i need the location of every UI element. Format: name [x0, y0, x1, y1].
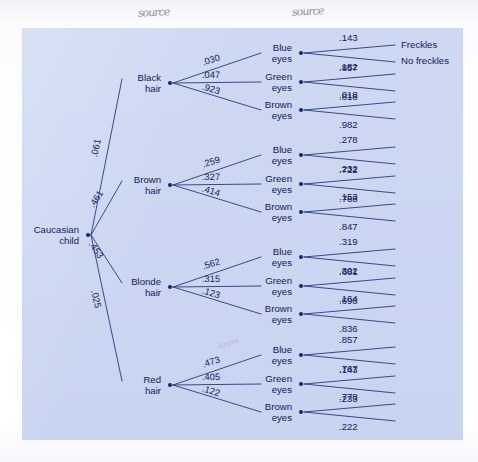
prob-nofreckles-3-2: .222: [339, 421, 358, 432]
node-eye-label-2-0-line2: eyes: [0, 257, 292, 268]
prob-nofreckles-0-2: .982: [339, 119, 358, 130]
node-eye-label-0-0-line1: Blue: [0, 42, 292, 53]
edge-eye-freckles-2-2: [304, 306, 395, 314]
prob-nofreckles-1-2: .847: [339, 221, 358, 232]
node-root-label-line1: Caucasian: [0, 224, 79, 235]
node-eye-label-1-1: Greeneyes: [0, 173, 292, 195]
edge-eye-nofreckles-2-2: [304, 314, 395, 323]
node-eye-label-1-0-line1: Blue: [0, 144, 292, 155]
edge-eye-freckles-0-0: [304, 45, 395, 53]
edge-eye-freckles-1-1: [304, 176, 395, 184]
node-eye-label-3-2-line2: eyes: [0, 412, 292, 423]
edge-eye-nofreckles-3-2: [304, 412, 395, 421]
node-eye-label-1-2: Browneyes: [0, 201, 292, 223]
prob-freckles-3-2: .778: [339, 391, 358, 402]
node-eye-label-1-0: Blueeyes: [0, 144, 292, 166]
prob-freckles-3-1: .767: [339, 363, 358, 374]
node-root-label: Caucasianchild: [0, 224, 79, 246]
prob-freckles-2-0: .319: [339, 236, 358, 247]
node-eye-label-0-2-line2: eyes: [0, 110, 292, 121]
edge-eye-nofreckles-1-2: [304, 212, 395, 221]
node-eye-label-3-0: Blueeyes: [0, 344, 292, 366]
node-eye-label-1-2-line1: Brown: [0, 201, 292, 212]
node-eye-label-2-2: Browneyes: [0, 303, 292, 325]
prob-freckles-1-2: .153: [339, 191, 358, 202]
node-root-label-line2: child: [0, 235, 79, 246]
node-eye-label-1-1-line2: eyes: [0, 184, 292, 195]
edge-eye-freckles-2-0: [304, 249, 395, 257]
prob-freckles-0-2: .018: [339, 89, 358, 100]
node-eye-label-3-1-line1: Green: [0, 373, 292, 384]
node-eye-label-0-2-line1: Brown: [0, 99, 292, 110]
prob-freckles-3-0: .857: [339, 334, 358, 345]
node-eye-label-1-0-line2: eyes: [0, 155, 292, 166]
edge-eye-freckles-2-1: [304, 278, 395, 286]
prob-freckles-1-1: .232: [339, 163, 358, 174]
node-eye-label-1-2-line2: eyes: [0, 212, 292, 223]
node-eye-label-1-1-line1: Green: [0, 173, 292, 184]
node-eye-label-0-0-line2: eyes: [0, 53, 292, 64]
prob-nofreckles-2-2: .836: [339, 323, 358, 334]
node-eye-label-3-1: Greeneyes: [0, 373, 292, 395]
prob-freckles-0-1: .182: [339, 61, 358, 72]
node-eye-label-2-0: Blueeyes: [0, 246, 292, 268]
node-eye-label-0-1: Greeneyes: [0, 71, 292, 93]
edge-eye-nofreckles-0-2: [304, 110, 395, 119]
node-eye-label-3-1-line2: eyes: [0, 384, 292, 395]
edge-eye-freckles-0-1: [304, 74, 395, 82]
node-eye-label-3-2: Browneyes: [0, 401, 292, 423]
edge-eye-freckles-3-2: [304, 404, 395, 412]
prob-freckles-2-2: .164: [339, 293, 358, 304]
prob-freckles-0-0: .143: [339, 32, 358, 43]
node-eye-label-2-0-line1: Blue: [0, 246, 292, 257]
node-eye-label-3-2-line1: Brown: [0, 401, 292, 412]
node-eye-label-2-1: Greeneyes: [0, 275, 292, 297]
prob-freckles-2-1: .302: [339, 265, 358, 276]
node-eye-label-2-2-line1: Brown: [0, 303, 292, 314]
node-eye-label-0-0: Blueeyes: [0, 42, 292, 64]
node-eye-label-2-2-line2: eyes: [0, 314, 292, 325]
node-eye-label-2-1-line2: eyes: [0, 286, 292, 297]
edge-eye-freckles-0-2: [304, 102, 395, 110]
edge-eye-freckles-3-0: [304, 347, 395, 355]
node-eye-label-0-1-line2: eyes: [0, 82, 292, 93]
node-eye-label-3-0-line1: Blue: [0, 344, 292, 355]
node-eye-label-2-1-line1: Green: [0, 275, 292, 286]
node-eye-label-3-0-line2: eyes: [0, 355, 292, 366]
node-eye-label-0-2: Browneyes: [0, 99, 292, 121]
leaf-label-no-freckles: No freckles: [401, 55, 449, 66]
edge-eye-freckles-3-1: [304, 376, 395, 384]
leaf-label-freckles: Freckles: [401, 39, 437, 50]
edge-eye-freckles-1-0: [304, 147, 395, 155]
edge-eye-freckles-1-2: [304, 204, 395, 212]
prob-freckles-1-0: .278: [339, 134, 358, 145]
node-eye-label-0-1-line1: Green: [0, 71, 292, 82]
